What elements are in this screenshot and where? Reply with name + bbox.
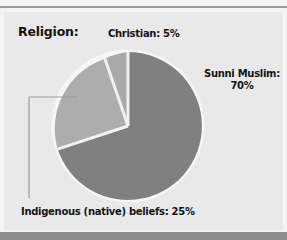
label-sunni-muslim-name: Sunni Muslim: — [204, 68, 280, 79]
label-christian: Christian: 5% — [108, 28, 179, 40]
label-indigenous-beliefs: Indigenous (native) beliefs: 25% — [21, 206, 195, 218]
bottom-bar — [0, 232, 287, 240]
label-sunni-muslim: Sunni Muslim: 70% — [204, 68, 280, 92]
label-sunni-muslim-percent: 70% — [204, 80, 280, 92]
pie-chart-figure: Religion: Christian: 5% Sunni Muslim: 70… — [0, 0, 287, 240]
